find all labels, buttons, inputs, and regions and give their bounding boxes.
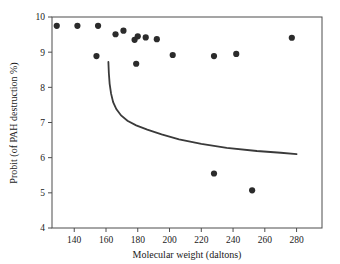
plot-frame <box>52 17 322 228</box>
data-point-marker <box>74 23 80 29</box>
y-tick-label: 5 <box>40 188 45 198</box>
y-tick-label: 6 <box>40 153 45 163</box>
data-point-marker <box>112 31 118 37</box>
x-tick-label: 200 <box>162 235 177 245</box>
y-tick-label: 9 <box>40 48 45 58</box>
data-point-marker <box>211 170 217 176</box>
y-axis-tick-labels: 45678910 <box>36 12 46 233</box>
data-point-marker <box>135 33 141 39</box>
x-tick-label: 260 <box>258 235 273 245</box>
y-tick-label: 4 <box>40 223 45 233</box>
x-tick-label: 280 <box>289 235 304 245</box>
data-point-marker <box>54 23 60 29</box>
data-points <box>54 23 295 194</box>
x-tick-label: 180 <box>131 235 146 245</box>
y-axis-ticks <box>48 17 52 228</box>
data-point-marker <box>233 51 239 57</box>
data-point-marker <box>95 23 101 29</box>
fitted-curve <box>108 62 296 154</box>
y-tick-label: 7 <box>40 118 45 128</box>
x-tick-label: 240 <box>226 235 241 245</box>
data-point-marker <box>143 34 149 40</box>
x-tick-label: 160 <box>99 235 114 245</box>
y-axis-title: Probit (of PAH destruction %) <box>8 62 20 183</box>
x-tick-label: 220 <box>194 235 209 245</box>
y-tick-label: 10 <box>36 12 46 22</box>
fit-curve-path <box>108 62 296 154</box>
x-axis-title: Molecular weight (daltons) <box>133 249 242 261</box>
data-point-marker <box>154 36 160 42</box>
x-tick-label: 140 <box>67 235 82 245</box>
data-point-marker <box>93 53 99 59</box>
y-tick-label: 8 <box>40 83 45 93</box>
data-point-marker <box>133 61 139 67</box>
plot-border <box>52 17 322 228</box>
data-point-marker <box>211 53 217 59</box>
x-axis-ticks <box>74 228 296 232</box>
data-point-marker <box>120 28 126 34</box>
data-point-marker <box>170 52 176 58</box>
data-point-marker <box>289 35 295 41</box>
plot-area: 140160180200220240260280 45678910 Molecu… <box>0 0 340 264</box>
data-point-marker <box>249 187 255 193</box>
scatter-chart-figure: 140160180200220240260280 45678910 Molecu… <box>0 0 340 264</box>
x-axis-tick-labels: 140160180200220240260280 <box>67 235 304 245</box>
